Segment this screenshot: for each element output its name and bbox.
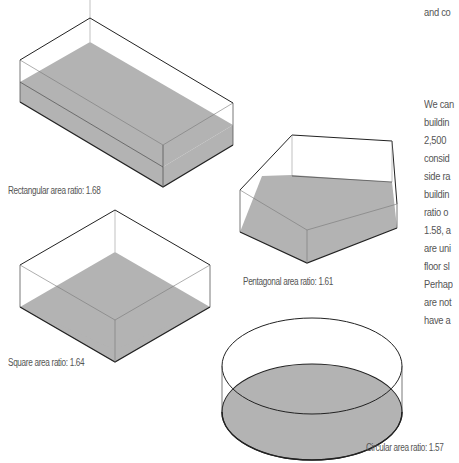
text-column: We can buildin 2,500 consid side ra buil…: [424, 95, 459, 329]
text-line: and co: [424, 3, 459, 21]
text-line: are uni: [424, 239, 459, 257]
pentagonal-prism-diagram: [240, 135, 397, 263]
text-line: We can: [424, 95, 459, 113]
text-fragment-top: and co: [424, 3, 459, 21]
text-line: 2,500: [424, 131, 459, 149]
square-caption: Square area ratio: 1.64: [8, 357, 84, 368]
text-line: have a: [424, 311, 459, 329]
pentagonal-caption: Pentagonal area ratio: 1.61: [243, 276, 333, 287]
text-line: Perhap: [424, 275, 459, 293]
text-line: buildin: [424, 185, 459, 203]
text-line: consid: [424, 149, 459, 167]
rectangular-box-diagram: [20, 0, 233, 187]
text-line: ratio o: [424, 203, 459, 221]
text-line: floor sl: [424, 257, 459, 275]
text-line: 1.58, a: [424, 221, 459, 239]
text-line: buildin: [424, 113, 459, 131]
rectangular-caption: Rectangular area ratio: 1.68: [8, 185, 100, 196]
text-line: side ra: [424, 167, 459, 185]
circular-cylinder-diagram: [222, 318, 402, 460]
square-box-diagram: [20, 210, 210, 362]
text-line: are not: [424, 293, 459, 311]
circular-caption: Circular area ratio: 1.57: [366, 442, 443, 453]
